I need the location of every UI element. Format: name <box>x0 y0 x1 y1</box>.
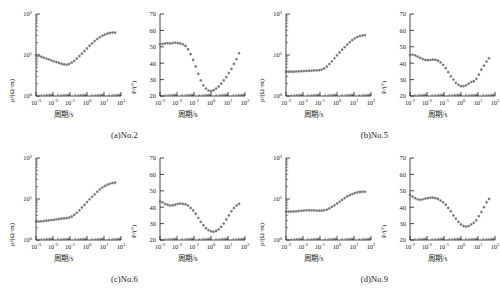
svg-text:101: 101 <box>474 242 483 250</box>
phase-plot-svg-b: 20304050607010-310-210-1100101102 <box>376 6 500 118</box>
y-axis-label-phase: P/(°) <box>380 225 388 238</box>
resistivity-subplot-a: ρ/(Ω·m) 10010110210-310-210-1100101102 周… <box>2 6 126 118</box>
svg-text:101: 101 <box>100 242 109 250</box>
svg-text:10-2: 10-2 <box>298 98 309 106</box>
svg-text:70: 70 <box>150 10 156 17</box>
svg-text:10-1: 10-1 <box>65 242 76 250</box>
svg-text:70: 70 <box>400 154 406 161</box>
svg-text:101: 101 <box>350 242 359 250</box>
phase-subplot-b: P/(°) 20304050607010-310-210-1100101102 … <box>376 6 500 118</box>
svg-text:30: 30 <box>150 220 156 227</box>
y-axis-label-phase: P/(°) <box>380 81 388 94</box>
x-axis-label-resistivity: 周期/s <box>2 252 126 263</box>
svg-text:30: 30 <box>150 76 156 83</box>
phase-plot-svg-a: 20304050607010-310-210-1100101102 <box>126 6 250 118</box>
phase-subplot-a: P/(°) 20304050607010-310-210-1100101102 … <box>126 6 250 118</box>
svg-text:102: 102 <box>23 10 32 18</box>
svg-text:10-2: 10-2 <box>422 98 433 106</box>
resistivity-subplot-b: ρ/(Ω·m) 10010110210-310-210-1100101102 周… <box>252 6 376 118</box>
x-axis-label-phase: 周期/s <box>126 108 250 119</box>
svg-text:10-1: 10-1 <box>189 242 200 250</box>
svg-text:10-3: 10-3 <box>31 242 42 250</box>
y-axis-label-resistivity: ρ/(Ω·m) <box>258 79 266 102</box>
y-axis-label-resistivity: ρ/(Ω·m) <box>8 223 16 246</box>
svg-text:10-2: 10-2 <box>48 242 59 250</box>
panel-caption-c: (c)No.6 <box>0 274 249 284</box>
svg-text:100: 100 <box>207 242 216 250</box>
svg-text:102: 102 <box>491 98 500 106</box>
svg-text:10-1: 10-1 <box>65 98 76 106</box>
svg-text:100: 100 <box>457 242 466 250</box>
resistivity-plot-svg-d: 10010110210-310-210-1100101102 <box>252 150 376 262</box>
panel-d: ρ/(Ω·m) 10010110210-310-210-1100101102 周… <box>250 144 499 288</box>
svg-text:102: 102 <box>367 98 376 106</box>
svg-text:60: 60 <box>400 171 406 178</box>
svg-text:10-1: 10-1 <box>439 242 450 250</box>
y-axis-label-phase: P/(°) <box>130 81 138 94</box>
resistivity-plot-svg-b: 10010110210-310-210-1100101102 <box>252 6 376 118</box>
svg-text:102: 102 <box>117 98 126 106</box>
svg-text:70: 70 <box>400 10 406 17</box>
svg-text:10-3: 10-3 <box>31 98 42 106</box>
svg-text:100: 100 <box>457 98 466 106</box>
panel-caption-b: (b)No.5 <box>250 130 499 140</box>
panel-caption-d: (d)No.9 <box>250 274 499 284</box>
x-axis-label-resistivity: 周期/s <box>2 108 126 119</box>
svg-text:10-3: 10-3 <box>281 98 292 106</box>
y-axis-label-phase: P/(°) <box>130 225 138 238</box>
svg-text:10-1: 10-1 <box>315 242 326 250</box>
svg-text:50: 50 <box>150 43 156 50</box>
x-axis-label-phase: 周期/s <box>376 252 500 263</box>
resistivity-subplot-d: ρ/(Ω·m) 10010110210-310-210-1100101102 周… <box>252 150 376 262</box>
x-axis-label-phase: 周期/s <box>376 108 500 119</box>
svg-text:10-2: 10-2 <box>298 242 309 250</box>
svg-text:10-2: 10-2 <box>172 242 183 250</box>
svg-text:10-2: 10-2 <box>422 242 433 250</box>
phase-plot-svg-d: 20304050607010-310-210-1100101102 <box>376 150 500 262</box>
svg-text:101: 101 <box>224 242 233 250</box>
phase-plot-svg-c: 20304050607010-310-210-1100101102 <box>126 150 250 262</box>
svg-text:101: 101 <box>23 195 32 203</box>
svg-text:60: 60 <box>150 171 156 178</box>
svg-text:30: 30 <box>400 220 406 227</box>
svg-text:102: 102 <box>23 154 32 162</box>
svg-text:60: 60 <box>150 27 156 34</box>
svg-text:101: 101 <box>273 195 282 203</box>
resistivity-plot-svg-a: 10010110210-310-210-1100101102 <box>2 6 126 118</box>
svg-text:30: 30 <box>400 76 406 83</box>
svg-text:10-3: 10-3 <box>405 98 416 106</box>
svg-text:102: 102 <box>117 242 126 250</box>
svg-text:101: 101 <box>100 98 109 106</box>
svg-text:10-3: 10-3 <box>405 242 416 250</box>
svg-text:10-1: 10-1 <box>439 98 450 106</box>
panel-a: ρ/(Ω·m) 10010110210-310-210-1100101102 周… <box>0 0 249 144</box>
svg-text:40: 40 <box>400 60 406 67</box>
svg-text:10-1: 10-1 <box>189 98 200 106</box>
y-axis-label-resistivity: ρ/(Ω·m) <box>258 223 266 246</box>
svg-text:10-2: 10-2 <box>48 98 59 106</box>
svg-text:70: 70 <box>150 154 156 161</box>
svg-text:10-3: 10-3 <box>155 242 166 250</box>
svg-text:102: 102 <box>273 154 282 162</box>
phase-subplot-c: P/(°) 20304050607010-310-210-1100101102 … <box>126 150 250 262</box>
svg-text:40: 40 <box>400 204 406 211</box>
svg-text:102: 102 <box>241 242 250 250</box>
svg-text:10-2: 10-2 <box>172 98 183 106</box>
svg-text:100: 100 <box>333 98 342 106</box>
y-axis-label-resistivity: ρ/(Ω·m) <box>8 79 16 102</box>
svg-text:10-1: 10-1 <box>315 98 326 106</box>
svg-text:100: 100 <box>83 98 92 106</box>
svg-text:60: 60 <box>400 27 406 34</box>
svg-text:50: 50 <box>400 43 406 50</box>
resistivity-subplot-c: ρ/(Ω·m) 10010110210-310-210-1100101102 周… <box>2 150 126 262</box>
x-axis-label-resistivity: 周期/s <box>252 108 376 119</box>
svg-text:101: 101 <box>474 98 483 106</box>
panel-c: ρ/(Ω·m) 10010110210-310-210-1100101102 周… <box>0 144 249 288</box>
x-axis-label-resistivity: 周期/s <box>252 252 376 263</box>
svg-text:101: 101 <box>224 98 233 106</box>
svg-text:101: 101 <box>23 51 32 59</box>
svg-text:102: 102 <box>241 98 250 106</box>
panel-b: ρ/(Ω·m) 10010110210-310-210-1100101102 周… <box>250 0 499 144</box>
svg-text:102: 102 <box>273 10 282 18</box>
